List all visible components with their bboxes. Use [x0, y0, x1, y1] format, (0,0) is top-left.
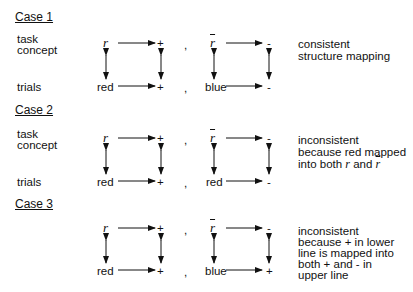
row-label-trials: trials	[17, 176, 41, 188]
case-title: Case 2	[15, 104, 53, 116]
symbol-minus: -	[267, 81, 271, 93]
symbol-r-bar: r	[210, 222, 215, 234]
symbol-r: r	[345, 157, 350, 171]
symbol-plus: +	[157, 132, 164, 144]
symbol-plus: +	[157, 176, 164, 188]
separator-comma: ,	[184, 39, 187, 51]
separator-comma: ,	[184, 134, 187, 146]
symbol-r-bar: r	[210, 37, 215, 49]
symbol-minus: -	[267, 37, 271, 49]
separator-comma: ,	[184, 224, 187, 236]
symbol-r-bar: r	[210, 132, 215, 144]
row-label-trials: trials	[17, 81, 41, 93]
case-title: Case 1	[15, 11, 53, 23]
description-line: because red mapped	[298, 146, 406, 158]
symbol-r: r	[103, 222, 108, 234]
stimulus-label: red	[206, 176, 223, 188]
stimulus-label: red	[97, 265, 114, 277]
symbol-plus: +	[157, 37, 164, 49]
stimulus-label: red	[97, 176, 114, 188]
row-label-concept: concept	[17, 44, 57, 56]
description-line: consistent	[298, 38, 350, 50]
stimulus-label: blue	[205, 81, 227, 93]
separator-comma: ,	[184, 82, 187, 94]
stimulus-label: blue	[205, 265, 227, 277]
symbol-plus: +	[157, 81, 164, 93]
description-line: upper line	[298, 269, 349, 281]
description-text: into both	[298, 158, 342, 170]
description-line: into both r and r	[298, 158, 380, 170]
symbol-plus: +	[266, 265, 273, 277]
symbol-plus: +	[157, 265, 164, 277]
symbol-minus: -	[267, 176, 271, 188]
symbol-plus: +	[157, 222, 164, 234]
description-line: inconsistent	[298, 134, 359, 146]
case-title: Case 3	[15, 198, 53, 210]
symbol-minus: -	[267, 222, 271, 234]
row-label-concept: concept	[17, 139, 57, 151]
description-line: structure mapping	[298, 50, 390, 62]
symbol-r: r	[103, 37, 108, 49]
separator-comma: ,	[184, 177, 187, 189]
stimulus-label: red	[97, 81, 114, 93]
description-text: and	[353, 158, 372, 170]
symbol-r: r	[103, 132, 108, 144]
separator-comma: ,	[184, 266, 187, 278]
symbol-minus: -	[267, 132, 271, 144]
symbol-r-bar: r	[376, 157, 381, 171]
